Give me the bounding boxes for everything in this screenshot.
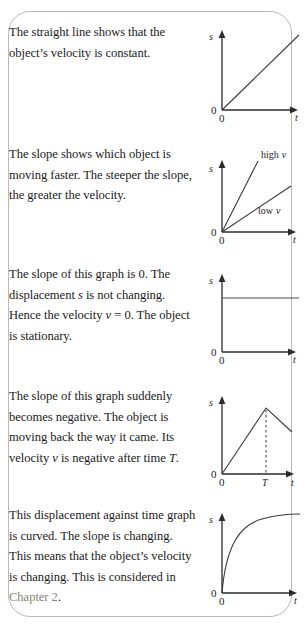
data-curve [222, 514, 300, 593]
origin-label-y: 0 [211, 226, 217, 238]
graph-svg-slope-comparison: s t 0 0 highv lowv [196, 144, 308, 246]
annotation-high-v-symbol: v [282, 149, 287, 160]
row-description-curved-graph: This displacement against time graph is … [0, 505, 196, 608]
data-line-low-v [222, 186, 291, 232]
table-row: The straight line shows that the object’… [0, 22, 308, 122]
text-part: is negative after time [58, 451, 169, 465]
graph-negative-slope: s t 0 0 T [196, 386, 308, 488]
origin-label-y: 0 [211, 587, 217, 599]
origin-label-y: 0 [211, 346, 217, 358]
origin-label-x: 0 [219, 476, 225, 488]
graph-zero-slope: s t 0 0 [196, 264, 308, 364]
row-description-zero-slope: The slope of this graph is 0. The displa… [0, 264, 196, 346]
text-part: . [58, 590, 61, 604]
data-line [222, 35, 299, 110]
x-axis-label: t [294, 595, 297, 605]
graph-svg-zero-slope: s t 0 0 [196, 264, 308, 364]
y-axis-label: s [209, 31, 213, 42]
annotation-low-v-symbol: v [276, 205, 281, 216]
y-axis-arrow-icon [219, 513, 226, 521]
text-part: This displacement against time graph is … [9, 508, 195, 584]
displacement-time-graph-table: The straight line shows that the object’… [0, 0, 308, 630]
text-part: The slope shows which object is moving f… [9, 147, 192, 202]
x-axis-label: t [295, 112, 298, 122]
annotation-high-v-text: high [261, 149, 279, 160]
text-part: The straight line shows that the object’… [9, 25, 165, 60]
chapter-crossref[interactable]: Chapter 2 [9, 590, 58, 604]
text-part: . [176, 451, 179, 465]
tick-label-T: T [262, 477, 269, 488]
y-axis-label: s [209, 275, 213, 286]
row-description-constant-velocity: The straight line shows that the object’… [0, 22, 196, 63]
graph-svg-constant-velocity: s t 0 0 [196, 22, 308, 122]
symbol-T: T [169, 451, 176, 465]
origin-label-x: 0 [219, 112, 225, 122]
x-axis-label: t [291, 477, 294, 488]
origin-label-x: 0 [219, 354, 225, 364]
table-row: The slope of this graph suddenly becomes… [0, 386, 308, 488]
y-axis-label: s [209, 514, 213, 525]
y-axis-label: s [209, 397, 213, 408]
table-row: This displacement against time graph is … [0, 505, 308, 608]
data-line-high-v [222, 161, 258, 232]
y-axis-arrow-icon [219, 396, 226, 404]
graph-slope-comparison: s t 0 0 highv lowv [196, 144, 308, 246]
graph-svg-negative-slope: s t 0 0 T [196, 386, 308, 488]
x-axis-label: t [293, 234, 296, 245]
graph-curved: s t 0 0 [196, 505, 308, 605]
x-axis-label: t [293, 354, 296, 364]
table-row: The slope of this graph is 0. The displa… [0, 264, 308, 364]
graph-constant-velocity: s t 0 0 [196, 22, 308, 122]
row-description-slope-comparison: The slope shows which object is moving f… [0, 144, 196, 206]
row-description-negative-slope: The slope of this graph suddenly becomes… [0, 386, 196, 468]
y-axis-label: s [209, 163, 213, 174]
graph-svg-curved: s t 0 0 [196, 505, 308, 605]
origin-label-y: 0 [211, 104, 217, 116]
origin-label-x: 0 [219, 234, 225, 246]
y-axis-arrow-icon [219, 30, 226, 38]
y-axis-arrow-icon [219, 160, 226, 168]
annotation-low-v: lowv [258, 205, 281, 216]
origin-label-x: 0 [219, 595, 225, 605]
data-line [222, 408, 292, 474]
annotation-low-v-text: low [258, 205, 274, 216]
table-row: The slope shows which object is moving f… [0, 144, 308, 246]
annotation-high-v: highv [261, 149, 287, 160]
y-axis-arrow-icon [219, 274, 226, 282]
origin-label-y: 0 [211, 468, 217, 480]
